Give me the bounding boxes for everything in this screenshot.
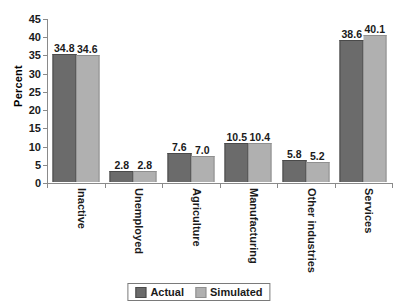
y-axis-tick-label: 0: [35, 178, 41, 189]
legend-label: Actual: [150, 286, 184, 298]
bar-value-label: 34.8: [54, 43, 74, 54]
x-axis-tick-label: Services: [363, 188, 374, 233]
bar-value-label: 2.8: [137, 160, 152, 171]
bar-group: 5.85.2: [277, 19, 335, 182]
bar-group: 38.640.1: [335, 19, 393, 182]
bar-group: 7.67.0: [162, 19, 220, 182]
bar-value-label: 10.4: [250, 132, 270, 143]
bar-pair: 34.834.6: [52, 19, 99, 182]
bar-group: 2.82.8: [105, 19, 163, 182]
bar-value-label: 5.8: [287, 149, 302, 160]
x-axis-tick-mark: [392, 183, 393, 188]
bar-pair: 10.510.4: [225, 19, 272, 182]
bar-pair: 2.82.8: [110, 19, 157, 182]
plot-area: 05101520253035404534.834.62.82.87.67.010…: [47, 19, 392, 183]
bar-simulated: 7.0: [191, 156, 214, 183]
bar-actual: 34.8: [52, 54, 76, 182]
y-axis-title: Percent: [12, 65, 24, 107]
x-axis-tick-mark: [105, 183, 106, 188]
bar-pair: 7.67.0: [167, 19, 214, 182]
bar-chart: Percent 05101520253035404534.834.62.82.8…: [0, 0, 398, 308]
bar-value-label: 7.6: [172, 142, 187, 153]
x-axis-tick-mark: [335, 183, 336, 188]
bar-value-label: 38.6: [342, 29, 362, 40]
chart-legend: ActualSimulated: [127, 283, 270, 301]
y-axis-tick-label: 30: [29, 68, 41, 79]
y-axis-tick-label: 35: [29, 50, 41, 61]
bar-actual: 2.8: [110, 171, 134, 182]
x-axis-tick-mark: [277, 183, 278, 188]
bar-simulated: 40.1: [364, 35, 387, 182]
bar-simulated: 5.2: [306, 162, 329, 182]
bar-value-label: 2.8: [114, 160, 129, 171]
bar-actual: 38.6: [340, 40, 364, 182]
x-axis-tick-label: Agriculture: [191, 188, 202, 247]
bar-simulated: 2.8: [134, 171, 157, 182]
bar-actual: 5.8: [282, 160, 306, 182]
bar-actual: 10.5: [225, 143, 249, 182]
legend-label: Simulated: [210, 286, 263, 298]
y-axis-tick-label: 10: [29, 141, 41, 152]
bar-group: 34.834.6: [47, 19, 105, 182]
legend-item[interactable]: Actual: [135, 286, 184, 298]
bar-simulated: 34.6: [76, 55, 99, 182]
x-axis-tick-label: Other industries: [306, 188, 317, 273]
bar-value-label: 5.2: [310, 151, 325, 162]
y-axis-tick-label: 20: [29, 105, 41, 116]
bar-value-label: 10.5: [227, 132, 247, 143]
bar-simulated: 10.4: [249, 143, 272, 182]
legend-swatch-icon: [135, 287, 146, 298]
y-axis-tick-label: 45: [29, 14, 41, 25]
x-axis-tick-label: Manufacturing: [248, 188, 259, 264]
bar-actual: 7.6: [167, 153, 191, 182]
x-axis-tick-label: Inactive: [76, 188, 87, 229]
y-axis-tick-label: 40: [29, 32, 41, 43]
x-axis-tick-mark: [220, 183, 221, 188]
bar-pair: 5.85.2: [282, 19, 329, 182]
y-axis-tick-label: 25: [29, 86, 41, 97]
bar-value-label: 7.0: [195, 145, 210, 156]
bar-value-label: 34.6: [77, 44, 97, 55]
y-axis-tick-label: 15: [29, 123, 41, 134]
x-axis-tick-mark: [162, 183, 163, 188]
bar-group: 10.510.4: [220, 19, 278, 182]
y-axis-tick-label: 5: [35, 159, 41, 170]
bar-pair: 38.640.1: [340, 19, 387, 182]
x-axis-tick-label: Unemployed: [133, 188, 144, 254]
legend-item[interactable]: Simulated: [195, 286, 263, 298]
legend-swatch-icon: [195, 287, 206, 298]
x-axis-tick-mark: [47, 183, 48, 188]
bar-value-label: 40.1: [365, 24, 385, 35]
